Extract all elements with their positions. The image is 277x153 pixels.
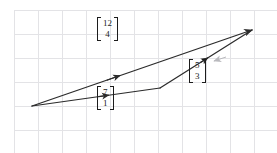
vectors-layer [0, 0, 277, 153]
vector-v-label: 5 3 [189, 59, 206, 83]
vector-u-label: 7 1 [97, 86, 114, 110]
bracket-right-icon [114, 17, 118, 41]
vector-v-ghost-arrowhead [214, 57, 226, 61]
bracket-right-icon [110, 86, 114, 110]
vector-u-x: 7 [103, 87, 108, 98]
vector-sum-segment [32, 30, 252, 106]
vector-v-y: 3 [195, 71, 200, 82]
vector-sum-label: 12 4 [97, 17, 118, 41]
vector-v-components: 5 3 [193, 59, 202, 83]
vector-sum-x: 12 [103, 18, 112, 29]
vector-u-segment [32, 88, 160, 106]
vector-v-x: 5 [195, 60, 200, 71]
vector-u-components: 7 1 [101, 86, 110, 110]
bracket-left-icon [97, 17, 101, 41]
vector-sum-arrowhead [107, 76, 120, 81]
bracket-right-icon [202, 59, 206, 83]
vector-addition-figure: 12 4 7 1 5 3 [0, 0, 277, 153]
bracket-left-icon [189, 59, 193, 83]
bracket-left-icon [97, 86, 101, 110]
vector-sum-components: 12 4 [101, 17, 114, 41]
vector-u-y: 1 [103, 98, 108, 109]
vector-sum-y: 4 [105, 29, 110, 40]
